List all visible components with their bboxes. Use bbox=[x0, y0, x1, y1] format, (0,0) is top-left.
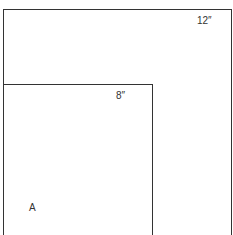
region-label-a: A bbox=[29, 203, 36, 213]
inner-square-8in bbox=[3, 84, 153, 235]
inner-square-dimension-label: 8″ bbox=[116, 91, 125, 101]
outer-square-dimension-label: 12″ bbox=[197, 16, 212, 26]
